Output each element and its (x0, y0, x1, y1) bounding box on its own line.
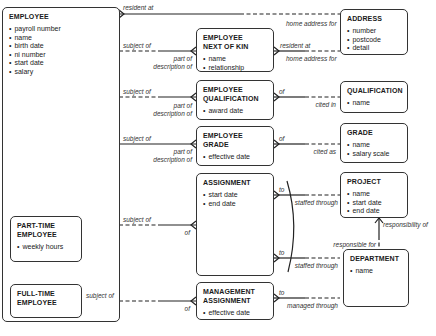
entity-part-time-employee[interactable]: PART-TIME EMPLOYEE weekly hours (10, 216, 82, 262)
rel-label: part of (150, 102, 192, 109)
entity-address[interactable]: ADDRESS number postcode detail (340, 9, 408, 55)
entity-department[interactable]: DEPARTMENT name (343, 249, 409, 307)
rel-label: description of (140, 110, 192, 117)
entity-employee-qualification[interactable]: EMPLOYEE QUALIFICATION award date (196, 80, 274, 120)
entity-title: FULL-TIME EMPLOYEE (17, 289, 67, 307)
attribute: relationship (203, 64, 267, 73)
rel-label: subject of (123, 88, 151, 95)
attribute: postcode (347, 36, 401, 45)
rel-label: of (279, 135, 284, 142)
entity-title: MANAGEMENT ASSIGNMENT (203, 287, 273, 305)
attribute: detail (347, 44, 401, 53)
entity-title: PROJECT (347, 177, 401, 186)
rel-label: of (172, 305, 190, 312)
attribute: start date (9, 59, 113, 68)
rel-label: part of (150, 148, 192, 155)
rel-label: resident at (123, 4, 153, 11)
entity-title: EMPLOYEE (9, 12, 113, 21)
rel-label: resident at (280, 42, 310, 49)
entity-qualification[interactable]: QUALIFICATION name (340, 81, 408, 113)
rel-label: to (279, 186, 284, 193)
entity-project[interactable]: PROJECT name start date end date (340, 172, 408, 218)
rel-label: subject of (86, 292, 114, 299)
entity-title: ADDRESS (347, 14, 401, 23)
attribute: name (350, 267, 402, 276)
entity-title: EMPLOYEE GRADE (203, 131, 253, 149)
rel-label: of (279, 88, 284, 95)
entity-title: DEPARTMENT (350, 254, 402, 263)
rel-label: responsibility of (383, 221, 428, 228)
entity-title: ASSIGNMENT (203, 178, 267, 187)
entity-assignment[interactable]: ASSIGNMENT start date end date (196, 173, 274, 276)
attribute: payroll number (9, 25, 113, 34)
entity-full-time-employee[interactable]: FULL-TIME EMPLOYEE (10, 284, 82, 318)
attribute: name (203, 55, 267, 64)
rel-label: managed through (284, 302, 338, 309)
entity-employee-grade[interactable]: EMPLOYEE GRADE effective date (196, 126, 274, 166)
attribute: name (347, 190, 401, 199)
attribute: end date (203, 200, 267, 209)
rel-label: description of (140, 63, 192, 70)
rel-label: part of (150, 55, 192, 62)
attribute: salary (9, 68, 113, 77)
entity-employee-next-of-kin[interactable]: EMPLOYEE NEXT OF KIN name relationship (196, 28, 274, 72)
rel-label: home address for (286, 20, 337, 27)
attribute: ni number (9, 51, 113, 60)
attribute: number (347, 27, 401, 36)
rel-label: description of (140, 156, 192, 163)
entity-title: EMPLOYEE QUALIFICATION (203, 85, 269, 103)
attribute: start date (347, 199, 401, 208)
entity-title: EMPLOYEE NEXT OF KIN (203, 33, 263, 51)
entity-grade[interactable]: GRADE name salary scale (340, 123, 408, 163)
attribute: birth date (9, 42, 113, 51)
rel-label: subject of (123, 135, 151, 142)
attribute: name (347, 99, 401, 108)
rel-label: to (279, 249, 284, 256)
attribute: effective date (203, 153, 267, 162)
attribute: salary scale (347, 150, 401, 159)
attribute: award date (203, 107, 267, 116)
entity-title: PART-TIME EMPLOYEE (17, 221, 67, 239)
rel-label: responsible for (320, 241, 376, 248)
rel-label: subject of (123, 216, 151, 223)
attribute: weekly hours (17, 243, 75, 252)
rel-label: of (172, 229, 190, 236)
attribute: name (9, 34, 113, 43)
attribute: name (347, 141, 401, 150)
entity-management-assignment[interactable]: MANAGEMENT ASSIGNMENT effective date (196, 282, 274, 320)
rel-label: subject of (123, 42, 151, 49)
rel-label: to (279, 289, 284, 296)
attribute: effective date (203, 309, 267, 318)
rel-label: home address for (286, 55, 337, 62)
rel-label: staffed through (284, 199, 338, 206)
rel-label: cited in (300, 101, 336, 108)
rel-label: cited as (300, 148, 336, 155)
rel-label: staffed through (284, 262, 338, 269)
attribute: start date (203, 191, 267, 200)
attribute: end date (347, 207, 401, 216)
entity-employee[interactable]: EMPLOYEE payroll number name birth date … (2, 7, 120, 322)
entity-title: GRADE (347, 128, 401, 137)
entity-title: QUALIFICATION (347, 86, 401, 95)
